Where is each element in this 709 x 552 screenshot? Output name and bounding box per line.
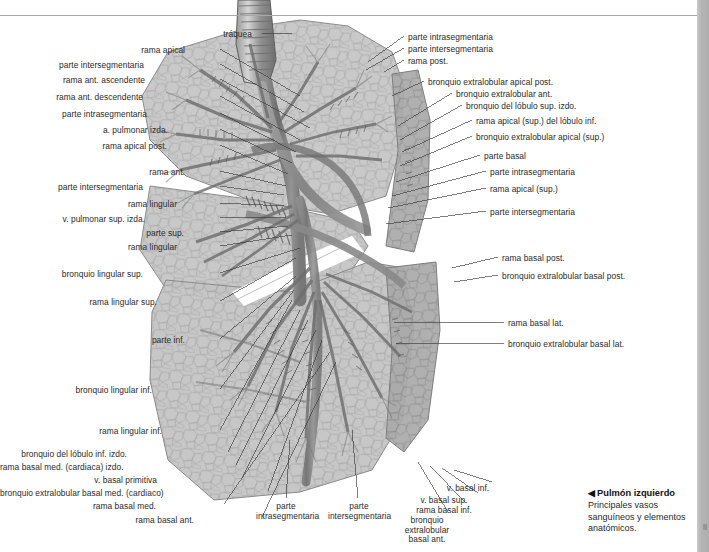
callout-label-a-pulmonar-izda: a. pulmonar izda. <box>0 126 168 136</box>
callout-label-line: intersegmentaria <box>328 512 390 522</box>
callout-label-bronquio-extralobular-basal-ant: bronquio extralobular basal ant. <box>395 516 459 545</box>
callout-label-bronquio-extralobular-ant: bronquio extralobular ant. <box>456 90 552 100</box>
callout-label-parte-intrasegmentaria: parte intrasegmentaria <box>408 33 493 43</box>
leader-line <box>452 257 498 268</box>
callout-label-parte-intersegmentaria: parte intersegmentaria <box>490 208 575 218</box>
callout-label-v-pulmonar-sup-izda: v. pulmonar sup. izda. <box>0 215 145 225</box>
page-edge-strip <box>697 0 709 552</box>
callout-label-rama-basal-ant: rama basal ant. <box>0 516 194 526</box>
callout-label-bronquio-extralobular-basal-post: bronquio extralobular basal post. <box>502 272 625 282</box>
leader-line <box>454 275 498 282</box>
callout-label-v-basal-inf: v. basal inf. <box>436 484 500 494</box>
callout-label-rama-ant: rama ant. <box>0 168 185 178</box>
callout-label-bronquio-del-lobulo-inf-izdo: bronquio del lóbulo inf. izdo. <box>0 450 127 460</box>
callout-label-parte-inf: parte inf. <box>0 336 185 346</box>
callout-label-v-basal-primitiva: v. basal primitiva <box>0 476 157 486</box>
callout-label-rama-lingular-sup: rama lingular sup. <box>0 298 157 308</box>
page-edge-mark <box>703 524 707 530</box>
caption-body: Principales vasos sanguíneos y elementos… <box>588 500 692 534</box>
callout-label-parte-intersegmentaria: parte intersegmentaria <box>0 183 143 193</box>
callout-label-bronquio-extralobular-apical-post: bronquio extralobular apical post. <box>428 78 553 88</box>
callout-label-rama-basal-post: rama basal post. <box>502 254 565 264</box>
callout-label-rama-post: rama post. <box>408 57 448 67</box>
callout-label-rama-lingular: rama lingular <box>0 200 177 210</box>
callout-label-bronquio-extralobular-apical-sup: bronquio extralobular apical (sup.) <box>476 133 604 143</box>
caption-arrow-icon: ◀ <box>588 488 595 498</box>
callout-label-rama-basal-lat: rama basal lat. <box>508 319 564 329</box>
callout-label-rama-apical: rama apical <box>0 46 185 56</box>
caption-title: ◀Pulmón izquierdo <box>588 488 692 499</box>
callout-label-parte-intrasegmentaria: parte intrasegmentaria <box>0 110 147 120</box>
callout-label-rama-apical-sup: rama apical (sup.) <box>490 185 558 195</box>
callout-label-rama-apical-sup-del-lobulo-inf: rama apical (sup.) del lóbulo inf. <box>476 117 596 127</box>
callout-label-bronquio-del-lobulo-sup-izdo: bronquio del lóbulo sup. izdo. <box>466 102 576 112</box>
callout-label-rama-basal-inf: rama basal inf. <box>412 506 476 516</box>
callout-label-bronquio-extralobular-basal-med-cardiaco: bronquio extralobular basal med. (cardia… <box>0 489 104 499</box>
callout-label-parte-intersegmentaria: parte intersegmentaria <box>0 61 144 71</box>
callout-label-rama-basal-med: rama basal med. <box>0 502 156 512</box>
callout-label-parte-basal: parte basal <box>484 152 526 162</box>
callout-label-rama-basal-med-cardiaca-izdo: rama basal med. (cardiaca) izdo. <box>0 463 119 473</box>
callout-label-rama-lingular-inf: rama lingular inf. <box>0 427 162 437</box>
header-rule <box>0 15 697 16</box>
caption-title-text: Pulmón izquierdo <box>597 488 675 498</box>
callout-label-rama-ant-descendente: rama ant. descendente <box>0 93 143 103</box>
callout-label-traquea: tráquea <box>0 30 252 40</box>
callout-label-bronquio-lingular-sup: bronquio lingular sup. <box>0 270 143 280</box>
callout-label-bronquio-extralobular-basal-lat: bronquio extralobular basal lat. <box>508 340 624 350</box>
callout-label-line: intrasegmentaria <box>256 512 316 522</box>
callout-label-parte-intrasegmentaria: parte intrasegmentaria <box>490 168 575 178</box>
callout-label-parte-intrasegmentaria: parteintrasegmentaria <box>256 502 316 521</box>
callout-label-bronquio-lingular-inf: bronquio lingular inf. <box>0 386 152 396</box>
page-canvas: tráquearama apicalparte intersegmentaria… <box>0 0 709 552</box>
callout-label-rama-lingular: rama lingular <box>0 243 177 253</box>
callout-label-rama-ant-ascendente: rama ant. ascendente <box>0 76 145 86</box>
callout-label-rama-apical-post: rama apical post. <box>0 142 167 152</box>
callout-label-v-basal-sup: v. basal sup. <box>412 496 476 506</box>
callout-label-parte-intersegmentaria: parte intersegmentaria <box>408 45 493 55</box>
callout-label-parte-intersegmentaria: parteintersegmentaria <box>328 502 390 521</box>
callout-label-parte-sup: parte sup. <box>0 229 184 239</box>
figure-caption: ◀Pulmón izquierdo Principales vasos sang… <box>588 488 692 535</box>
